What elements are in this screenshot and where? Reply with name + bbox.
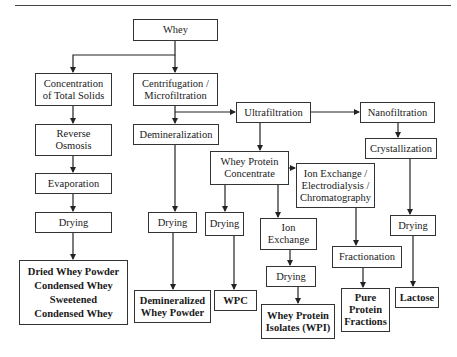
output-dried-whey-powder: Dried Whey Powder Condensed Whey Sweeten…	[19, 260, 128, 325]
node-ultrafiltration: Ultrafiltration	[236, 102, 311, 123]
node-ion-exchange-electrodialysis-chromatography: Ion Exchange / Electrodialysis / Chromat…	[296, 163, 375, 208]
node-centrifugation-microfiltration: Centrifugation / Microfiltration	[133, 73, 218, 106]
output-lactose: Lactose	[395, 287, 439, 308]
node-whey: Whey	[133, 19, 218, 41]
node-evaporation: Evaporation	[35, 173, 112, 194]
node-drying-wpc: Drying	[205, 212, 244, 236]
output-pure-protein-fractions: Pure Protein Fractions	[341, 288, 390, 332]
output-whey-protein-isolates: Whey Protein Isolates (WPI)	[261, 304, 335, 339]
node-concentration-total-solids: Concentration of Total Solids	[35, 73, 112, 106]
node-whey-protein-concentrate: Whey Protein Concentrate	[210, 151, 289, 185]
output-wpc: WPC	[214, 290, 257, 311]
node-demineralization: Demineralization	[133, 124, 219, 145]
node-drying-total-solids: Drying	[35, 212, 112, 233]
node-drying-ion-exchange: Drying	[266, 266, 316, 287]
node-nanofiltration: Nanofiltration	[360, 102, 435, 123]
node-fractionation: Fractionation	[332, 246, 402, 268]
output-demineralized-whey-powder: Demineralized Whey Powder	[134, 290, 211, 323]
node-reverse-osmosis: Reverse Osmosis	[35, 124, 112, 156]
node-crystallization: Crystallization	[365, 138, 437, 159]
node-ion-exchange: Ion Exchange	[260, 218, 317, 250]
node-drying-lactose: Drying	[390, 215, 436, 236]
node-drying-demineralized: Drying	[148, 212, 197, 233]
